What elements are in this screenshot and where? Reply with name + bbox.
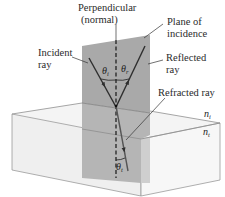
incident-label-line2: ray [38,59,52,70]
plane-label-line2: incidence [167,28,208,39]
normal-label-line2: (normal) [81,14,118,26]
n-i-label: ni [204,108,211,120]
incident-label-line1: Incident [38,47,72,58]
reflected-label-line2: ray [166,64,180,75]
plane-label-line1: Plane of [167,16,202,27]
plane-leader [144,24,163,38]
optics-diagram: Perpendicular (normal) Plane of incidenc… [0,0,225,197]
refracted-label: Refracted ray [158,87,216,98]
reflected-leader [148,60,163,64]
reflected-label-line1: Reflected [166,52,207,63]
incidence-point [115,105,118,108]
normal-label-line1: Perpendicular [78,2,137,13]
plane-lower-right [141,137,150,183]
